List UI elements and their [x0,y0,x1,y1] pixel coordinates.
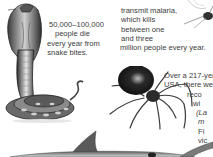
caption-line: million people every year. [120,43,206,52]
caption-line: which kills [121,15,206,24]
caption-line: 50,000–100,000 [49,20,104,29]
caption-line: USA, there we [164,80,213,89]
caption-line: people die [41,29,104,38]
cobra-illustration [0,0,90,125]
caption-line: every year from [43,39,104,48]
caption-line: transmit malaria, [121,6,206,15]
spider-caption: Over a 217-yea USA, there we reco wi (La… [164,71,213,145]
caption-line: reco [187,90,213,99]
caption-line: and three [121,34,206,43]
malaria-caption: transmit malaria, which kills between on… [121,6,206,52]
book-page: 50,000–100,000 people die every year fro… [0,0,213,157]
caption-line: between one [121,25,206,34]
caption-line: (La [196,108,213,117]
caption-line: snake bites. [31,48,104,57]
caption-line: vic [198,136,213,145]
caption-line: wi [193,99,213,108]
caption-line: Over a 217-yea [164,71,213,80]
snake-bite-caption: 50,000–100,000 people die every year fro… [43,20,104,57]
caption-line: m [198,117,213,126]
caption-line: Fi [198,127,213,136]
